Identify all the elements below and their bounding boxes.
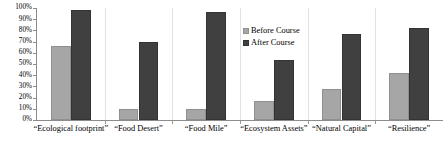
legend-label: After Course — [251, 38, 295, 47]
x-axis-category-label: “Natural Capital” — [312, 124, 371, 134]
y-axis-tick-label: 70% — [19, 38, 32, 45]
bar — [51, 46, 71, 120]
y-axis-tick-mark — [33, 30, 36, 31]
bar — [409, 28, 429, 120]
y-axis-tick-mark — [33, 120, 36, 121]
x-axis-category-label: “Food Mile” — [185, 124, 228, 134]
legend-item[interactable]: After Course — [243, 37, 300, 48]
bar — [119, 109, 139, 120]
group-separator-line — [240, 8, 241, 120]
group-separator-line — [375, 8, 376, 120]
group-separator-line — [308, 8, 309, 120]
chart-legend: Before CourseAfter Course — [243, 25, 300, 49]
y-axis-tick-label: 80% — [19, 27, 32, 34]
y-axis-tick-label: 40% — [19, 72, 32, 79]
y-axis-tick-mark — [33, 98, 36, 99]
y-axis-tick-label: 90% — [19, 16, 32, 23]
legend-swatch-icon — [243, 28, 249, 34]
x-axis-category-label: “Ecological footprint” — [34, 124, 109, 134]
bar — [254, 101, 274, 120]
x-axis-category-label: “Ecosystem Assets” — [240, 124, 307, 134]
y-axis-tick-label: 100% — [15, 4, 32, 11]
y-axis-tick-label: 50% — [19, 60, 32, 67]
y-axis-tick-mark — [33, 19, 36, 20]
y-axis-tick-label: 30% — [19, 83, 32, 90]
y-axis-tick-mark — [33, 8, 36, 9]
bar — [206, 12, 226, 120]
bar — [139, 42, 159, 120]
bar — [342, 34, 362, 120]
bar — [389, 73, 409, 120]
y-axis-tick-label: 10% — [19, 105, 32, 112]
x-axis-tick-mark — [105, 121, 106, 124]
x-axis-tick-mark — [375, 121, 376, 124]
bar — [186, 109, 206, 120]
legend-swatch-icon — [243, 40, 249, 46]
bar — [322, 89, 342, 120]
bar — [71, 10, 91, 120]
y-axis-tick-mark — [33, 109, 36, 110]
x-axis-category-label: “Food Desert” — [114, 124, 163, 134]
y-axis-tick-mark — [33, 86, 36, 87]
y-axis-tick-mark — [33, 75, 36, 76]
y-axis-tick-label: 0% — [22, 116, 32, 123]
y-axis-tick-mark — [33, 53, 36, 54]
x-axis-tick-mark — [308, 121, 309, 124]
y-axis-tick-mark — [33, 64, 36, 65]
bar-chart: 0%10%20%30%40%50%60%70%80%90%100% “Ecolo… — [0, 0, 445, 146]
plot-area — [37, 8, 443, 120]
x-axis-tick-mark — [240, 121, 241, 124]
group-separator-line — [105, 8, 106, 120]
legend-label: Before Course — [251, 26, 300, 35]
x-axis-tick-mark — [172, 121, 173, 124]
y-axis-tick-mark — [33, 42, 36, 43]
bar — [274, 60, 294, 120]
y-axis-tick-label: 20% — [19, 94, 32, 101]
x-axis-tick-labels: “Ecological footprint”“Food Desert”“Food… — [0, 124, 445, 146]
legend-item[interactable]: Before Course — [243, 25, 300, 36]
x-axis-category-label: “Resilience” — [388, 124, 430, 134]
group-separator-line — [172, 8, 173, 120]
y-axis-tick-label: 60% — [19, 49, 32, 56]
